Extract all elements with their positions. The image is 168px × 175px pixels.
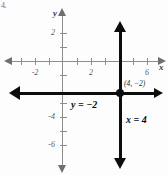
- x-axis-line: [8, 61, 160, 62]
- x-tick-neg3: [21, 58, 22, 65]
- y-tick-1: [60, 47, 67, 48]
- y-axis-down-arrow-icon: [58, 165, 66, 173]
- x-tick-neg2: [35, 58, 36, 65]
- y-tick-2: [60, 33, 67, 34]
- x-tick-1: [77, 58, 78, 65]
- y-tick-label-neg6: -6: [40, 141, 55, 149]
- intersection-point-marker: [116, 89, 124, 97]
- equation-label-vertical: x = 4: [126, 115, 147, 125]
- figure-coordinate-plane: 4. -2 2 6 2 -4 -6 x y (4, −2) y = −2 x =…: [0, 0, 168, 175]
- x-tick-label-6: 6: [145, 69, 149, 77]
- y-axis-up-arrow-icon: [58, 8, 66, 16]
- x-axis-left-arrow-icon: [4, 57, 12, 65]
- x-tick-5: [133, 58, 134, 65]
- y-tick-neg5: [60, 131, 67, 132]
- equation-label-horizontal: y = −2: [71, 100, 97, 110]
- graph-line-y-right-arrow-icon: [154, 88, 163, 98]
- y-tick-label-2: 2: [42, 29, 55, 37]
- y-axis-label: y: [53, 9, 57, 18]
- y-tick-neg3: [60, 103, 67, 104]
- x-tick-label-2: 2: [89, 69, 93, 77]
- y-tick-label-neg4: -4: [40, 113, 55, 121]
- graph-line-x-up-arrow-icon: [114, 21, 126, 32]
- x-tick-6: [147, 58, 148, 65]
- y-tick-neg6: [60, 145, 67, 146]
- problem-number-marker: 4.: [1, 2, 6, 10]
- x-tick-label-neg2: -2: [32, 69, 39, 77]
- x-axis-label: x: [159, 63, 164, 72]
- y-tick-neg4: [60, 117, 67, 118]
- x-tick-2: [91, 58, 92, 65]
- intersection-point-label: (4, −2): [124, 80, 145, 88]
- x-tick-3: [105, 58, 106, 65]
- x-tick-neg1: [49, 58, 50, 65]
- y-tick-neg1: [60, 75, 67, 76]
- graph-line-y-equals-neg2: [18, 92, 155, 95]
- graph-line-y-left-arrow-icon: [9, 86, 20, 100]
- graph-line-x-down-arrow-icon: [114, 158, 126, 169]
